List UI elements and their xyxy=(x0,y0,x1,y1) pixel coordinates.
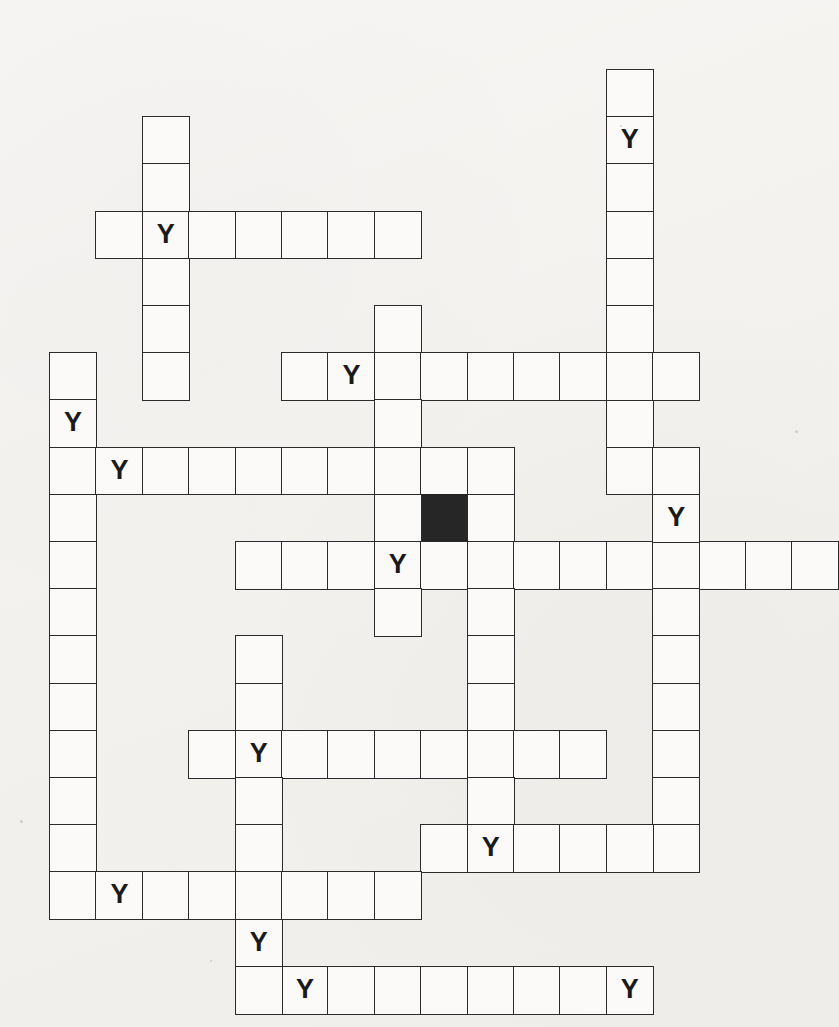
crossword-grid[interactable]: YYYYYYYYYYYYY xyxy=(0,0,839,1027)
empty-cell[interactable] xyxy=(559,730,607,779)
empty-cell[interactable] xyxy=(327,966,375,1015)
empty-cell[interactable] xyxy=(188,211,236,260)
empty-cell[interactable] xyxy=(142,116,190,165)
empty-cell[interactable] xyxy=(559,352,607,401)
empty-cell[interactable] xyxy=(513,730,561,779)
empty-cell[interactable] xyxy=(95,211,143,260)
empty-cell[interactable] xyxy=(467,588,515,637)
letter-cell[interactable]: Y xyxy=(142,211,190,260)
empty-cell[interactable] xyxy=(49,352,97,401)
empty-cell[interactable] xyxy=(606,163,654,212)
letter-cell[interactable]: Y xyxy=(95,871,143,920)
empty-cell[interactable] xyxy=(606,541,654,590)
letter-cell[interactable]: Y xyxy=(281,966,329,1015)
empty-cell[interactable] xyxy=(327,447,375,496)
empty-cell[interactable] xyxy=(652,730,700,779)
empty-cell[interactable] xyxy=(652,447,700,496)
empty-cell[interactable] xyxy=(699,541,747,590)
empty-cell[interactable] xyxy=(235,541,283,590)
empty-cell[interactable] xyxy=(420,824,468,873)
empty-cell[interactable] xyxy=(49,871,97,920)
empty-cell[interactable] xyxy=(188,871,236,920)
empty-cell[interactable] xyxy=(652,588,700,637)
empty-cell[interactable] xyxy=(374,305,422,354)
empty-cell[interactable] xyxy=(374,494,422,543)
empty-cell[interactable] xyxy=(49,824,97,873)
empty-cell[interactable] xyxy=(513,966,561,1015)
empty-cell[interactable] xyxy=(606,69,654,118)
empty-cell[interactable] xyxy=(420,966,468,1015)
empty-cell[interactable] xyxy=(606,305,654,354)
empty-cell[interactable] xyxy=(559,541,607,590)
empty-cell[interactable] xyxy=(467,541,515,590)
empty-cell[interactable] xyxy=(467,447,515,496)
empty-cell[interactable] xyxy=(559,966,607,1015)
empty-cell[interactable] xyxy=(467,683,515,732)
empty-cell[interactable] xyxy=(467,494,515,543)
empty-cell[interactable] xyxy=(142,163,190,212)
empty-cell[interactable] xyxy=(513,352,561,401)
empty-cell[interactable] xyxy=(513,824,561,873)
empty-cell[interactable] xyxy=(420,730,468,779)
empty-cell[interactable] xyxy=(745,541,793,590)
empty-cell[interactable] xyxy=(606,352,654,401)
empty-cell[interactable] xyxy=(374,730,422,779)
empty-cell[interactable] xyxy=(513,541,561,590)
empty-cell[interactable] xyxy=(49,447,97,496)
empty-cell[interactable] xyxy=(327,211,375,260)
empty-cell[interactable] xyxy=(281,541,329,590)
empty-cell[interactable] xyxy=(652,777,700,826)
empty-cell[interactable] xyxy=(467,635,515,684)
letter-cell[interactable]: Y xyxy=(606,966,654,1015)
empty-cell[interactable] xyxy=(606,824,654,873)
empty-cell[interactable] xyxy=(142,352,190,401)
empty-cell[interactable] xyxy=(235,211,283,260)
empty-cell[interactable] xyxy=(327,730,375,779)
empty-cell[interactable] xyxy=(467,966,515,1015)
empty-cell[interactable] xyxy=(374,211,422,260)
empty-cell[interactable] xyxy=(281,352,329,401)
empty-cell[interactable] xyxy=(235,635,283,684)
letter-cell[interactable]: Y xyxy=(374,541,422,590)
empty-cell[interactable] xyxy=(235,824,283,873)
empty-cell[interactable] xyxy=(652,824,700,873)
empty-cell[interactable] xyxy=(606,211,654,260)
empty-cell[interactable] xyxy=(791,541,839,590)
empty-cell[interactable] xyxy=(49,635,97,684)
empty-cell[interactable] xyxy=(374,447,422,496)
empty-cell[interactable] xyxy=(420,447,468,496)
empty-cell[interactable] xyxy=(49,588,97,637)
letter-cell[interactable]: Y xyxy=(652,494,700,543)
empty-cell[interactable] xyxy=(235,683,283,732)
empty-cell[interactable] xyxy=(235,871,283,920)
empty-cell[interactable] xyxy=(188,447,236,496)
empty-cell[interactable] xyxy=(49,541,97,590)
letter-cell[interactable]: Y xyxy=(606,116,654,165)
empty-cell[interactable] xyxy=(606,399,654,448)
empty-cell[interactable] xyxy=(327,541,375,590)
empty-cell[interactable] xyxy=(49,777,97,826)
empty-cell[interactable] xyxy=(235,447,283,496)
empty-cell[interactable] xyxy=(467,777,515,826)
empty-cell[interactable] xyxy=(142,447,190,496)
letter-cell[interactable]: Y xyxy=(235,919,283,968)
empty-cell[interactable] xyxy=(652,541,700,590)
empty-cell[interactable] xyxy=(49,494,97,543)
empty-cell[interactable] xyxy=(142,871,190,920)
empty-cell[interactable] xyxy=(188,730,236,779)
empty-cell[interactable] xyxy=(559,824,607,873)
empty-cell[interactable] xyxy=(142,258,190,307)
empty-cell[interactable] xyxy=(652,635,700,684)
empty-cell[interactable] xyxy=(606,258,654,307)
empty-cell[interactable] xyxy=(374,399,422,448)
empty-cell[interactable] xyxy=(49,730,97,779)
empty-cell[interactable] xyxy=(327,871,375,920)
empty-cell[interactable] xyxy=(374,588,422,637)
empty-cell[interactable] xyxy=(281,871,329,920)
letter-cell[interactable]: Y xyxy=(95,447,143,496)
empty-cell[interactable] xyxy=(142,305,190,354)
empty-cell[interactable] xyxy=(374,352,422,401)
letter-cell[interactable]: Y xyxy=(49,399,97,448)
empty-cell[interactable] xyxy=(467,352,515,401)
empty-cell[interactable] xyxy=(420,352,468,401)
